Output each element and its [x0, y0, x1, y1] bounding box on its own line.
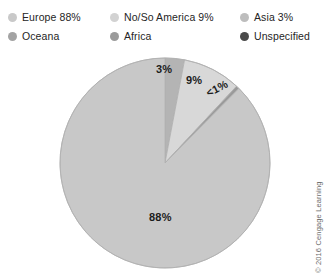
- slice-data-label-europe: 88%: [149, 211, 172, 223]
- slice-europe: [60, 58, 270, 268]
- slice-data-label-asia: 3%: [156, 63, 172, 75]
- pie-chart-svg: [0, 0, 326, 279]
- copyright-credit: © 2016 Cengage Learning: [311, 113, 325, 273]
- pie-chart: 3% 9% <1% 88%: [0, 0, 326, 279]
- slice-data-label-no-so-america: 9%: [186, 74, 202, 86]
- copyright-credit-text: © 2016 Cengage Learning: [314, 181, 323, 273]
